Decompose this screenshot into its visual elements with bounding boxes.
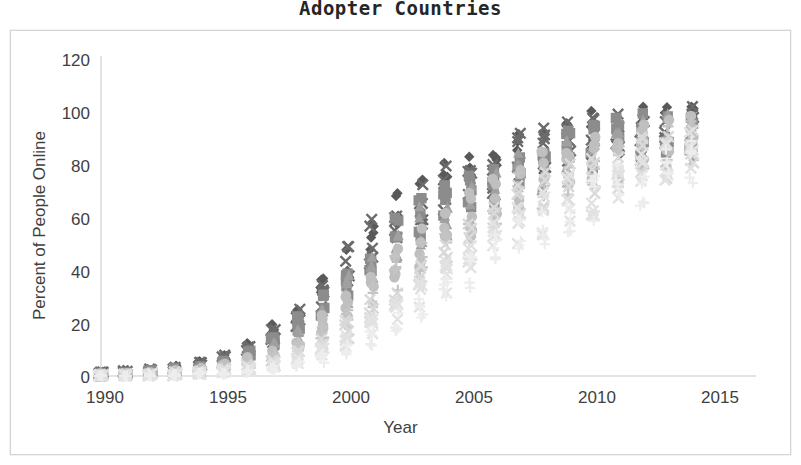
series-5 — [94, 111, 699, 381]
data-markers — [94, 101, 699, 381]
data-point — [464, 152, 474, 162]
ytick-80: 80 — [46, 157, 90, 177]
data-point — [366, 275, 376, 285]
data-point — [465, 283, 475, 293]
y-axis-title: Percent of People Online — [30, 131, 50, 320]
data-point — [563, 227, 573, 237]
data-point — [440, 208, 450, 218]
data-point — [563, 126, 573, 136]
data-point — [464, 188, 474, 198]
data-point — [537, 147, 547, 157]
xtick-2005: 2005 — [439, 388, 509, 408]
ytick-0: 0 — [46, 368, 90, 388]
xtick-1990: 1990 — [70, 388, 140, 408]
xtick-2015: 2015 — [685, 388, 755, 408]
data-point — [565, 226, 575, 236]
x-axis-title: Year — [0, 418, 801, 438]
chart-figure: Adopter Countries 120 100 80 60 40 20 0 … — [0, 0, 801, 465]
data-point — [490, 252, 500, 262]
xtick-1995: 1995 — [193, 388, 263, 408]
xtick-2000: 2000 — [316, 388, 386, 408]
chart-title: Adopter Countries — [0, 0, 801, 21]
data-point — [488, 174, 498, 184]
data-point — [340, 256, 350, 266]
xtick-2010: 2010 — [562, 388, 632, 408]
data-point — [538, 225, 548, 235]
data-point — [319, 290, 329, 300]
data-point — [440, 180, 450, 190]
data-point — [464, 171, 474, 181]
ytick-120: 120 — [46, 51, 90, 71]
data-point — [417, 223, 427, 233]
data-point — [438, 189, 448, 199]
data-point — [367, 340, 377, 350]
data-point — [639, 119, 649, 129]
data-point — [589, 143, 599, 153]
ytick-100: 100 — [46, 104, 90, 124]
ytick-40: 40 — [46, 263, 90, 283]
data-point — [588, 120, 598, 130]
axis-lines — [101, 56, 756, 376]
ytick-60: 60 — [46, 210, 90, 230]
data-point — [365, 339, 375, 349]
data-point — [392, 324, 402, 334]
data-point — [390, 213, 400, 223]
ytick-20: 20 — [46, 316, 90, 336]
